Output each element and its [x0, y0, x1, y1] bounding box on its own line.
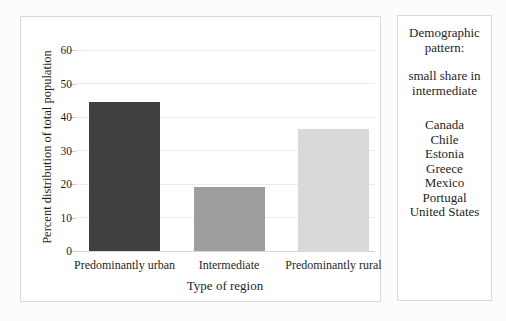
country-item: Greece	[398, 162, 491, 177]
category-label-0: Predominantly urban	[74, 258, 175, 272]
y-tick-label-60: 60	[39, 43, 72, 57]
country-item: Mexico	[398, 176, 491, 191]
country-item: Portugal	[398, 191, 491, 206]
x-axis-title: Type of region	[187, 278, 263, 294]
bar-chart: Percent distribution of total population…	[20, 16, 381, 302]
panel-subtitle: small share in intermediate	[398, 69, 491, 98]
gridline-50	[76, 83, 375, 84]
y-tick-label-30: 30	[39, 144, 72, 158]
country-item: United States	[398, 205, 491, 220]
bar-2	[298, 129, 369, 251]
y-tick-label-50: 50	[39, 77, 72, 91]
panel-title: Demographic pattern:	[398, 26, 491, 55]
country-item: Estonia	[398, 147, 491, 162]
category-label-1: Intermediate	[199, 258, 260, 272]
country-item: Chile	[398, 133, 491, 148]
bar-0	[89, 102, 160, 251]
annotation-panel: Demographic pattern: small share in inte…	[397, 15, 492, 301]
figure: Percent distribution of total population…	[0, 0, 506, 321]
country-item: Canada	[398, 118, 491, 133]
category-label-2: Predominantly rural	[285, 258, 381, 272]
y-tick-label-40: 40	[39, 110, 72, 124]
x-axis-line	[76, 251, 375, 252]
country-list: CanadaChileEstoniaGreeceMexicoPortugalUn…	[398, 118, 491, 220]
y-tick-label-10: 10	[39, 211, 72, 225]
bar-1	[194, 187, 265, 251]
y-tick-label-20: 20	[39, 177, 72, 191]
y-tick-label-0: 0	[39, 244, 72, 258]
gridline-60	[76, 50, 375, 51]
